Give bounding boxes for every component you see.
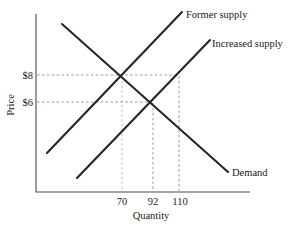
former-supply-curve [47,12,182,153]
price-tick-6: $6 [23,97,34,108]
x-axis-title: Quantity [133,210,170,221]
supply-demand-chart: Former supply Increased supply Demand $8… [0,0,290,233]
quantity-tick-110: 110 [172,196,187,207]
increased-supply-curve [77,40,210,178]
supply-demand-figure: Former supply Increased supply Demand $8… [0,0,290,233]
y-axis-title: Price [5,94,16,116]
price-tick-8: $8 [23,70,34,81]
increased-supply-label: Increased supply [212,38,284,49]
former-supply-label: Former supply [186,9,248,20]
quantity-tick-92: 92 [148,196,159,207]
quantity-tick-70: 70 [117,196,128,207]
demand-label: Demand [232,167,268,178]
